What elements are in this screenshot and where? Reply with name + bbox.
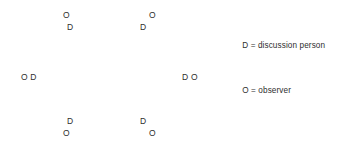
legend-item-discussion-person: D = discussion person (228, 23, 340, 68)
marker-top-right-discussant: D (140, 23, 146, 32)
legend-item-full-text: D = discussion person (242, 41, 325, 50)
marker-bottom-left-observer: O (63, 129, 70, 138)
marker-top-left-discussant: D (67, 23, 73, 32)
marker-right-pair: D O (182, 73, 198, 82)
marker-top-left-observer: O (63, 11, 70, 20)
marker-bottom-left-discussant: D (67, 117, 73, 126)
marker-top-right-observer: O (149, 11, 156, 20)
legend: D = discussion person O = observer (228, 23, 340, 113)
seating-arrangement-diagram: ODODO DD ODODO D = discussion person O =… (0, 0, 344, 158)
legend-item-full-text: O = observer (242, 86, 291, 95)
legend-item-observer: O = observer (228, 68, 340, 113)
marker-left-pair: O D (21, 73, 37, 82)
marker-bottom-right-observer: O (149, 129, 156, 138)
marker-bottom-right-discussant: D (140, 117, 146, 126)
